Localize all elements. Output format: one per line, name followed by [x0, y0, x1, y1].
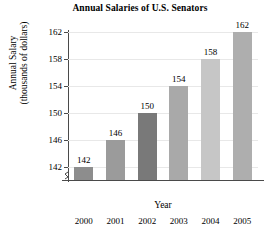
x-tick-label: 2005: [233, 216, 251, 226]
y-axis-title-line2: (thousands of dollars): [19, 0, 30, 138]
chart-title: Annual Salaries of U.S. Senators: [0, 3, 280, 13]
bar[interactable]: [233, 32, 252, 180]
y-tick-label: 146: [49, 135, 63, 145]
y-tick-label: 142: [49, 162, 63, 172]
x-tick-label: 2003: [170, 216, 188, 226]
bar-value-label: 158: [204, 47, 218, 57]
bar-group[interactable]: 142: [74, 32, 93, 180]
x-tick-label: 2000: [75, 216, 93, 226]
bars-layer: 2000142200114620021502003154200415820051…: [68, 32, 258, 180]
bar-value-label: 150: [140, 101, 154, 111]
y-axis-title: Annual Salary (thousands of dollars): [8, 0, 30, 138]
bar[interactable]: [201, 59, 220, 180]
y-tick-label: 162: [49, 27, 63, 37]
bar[interactable]: [138, 113, 157, 180]
y-tick-label: 150: [49, 108, 63, 118]
bar-group[interactable]: 150: [138, 32, 157, 180]
y-tick-label: 154: [49, 81, 63, 91]
bar-value-label: 154: [172, 74, 186, 84]
y-tick-label: 158: [49, 54, 63, 64]
x-tick-label: 2001: [107, 216, 125, 226]
bar[interactable]: [106, 140, 125, 180]
x-tick-label: 2004: [202, 216, 220, 226]
y-axis-title-line1: Annual Salary: [8, 0, 19, 138]
bar-group[interactable]: 158: [201, 32, 220, 180]
plot-area: 142146150154158162 200014220011462002150…: [68, 32, 258, 180]
x-tick-label: 2002: [138, 216, 156, 226]
bar[interactable]: [74, 167, 93, 180]
bar-value-label: 162: [235, 20, 249, 30]
x-axis-title: Year: [68, 200, 258, 210]
bar-group[interactable]: 154: [169, 32, 188, 180]
bar-value-label: 142: [77, 155, 91, 165]
bar[interactable]: [169, 86, 188, 180]
x-axis-line: [62, 180, 264, 181]
bar-chart: Annual Salaries of U.S. Senators Annual …: [0, 0, 280, 232]
bar-group[interactable]: 146: [106, 32, 125, 180]
bar-value-label: 146: [109, 128, 123, 138]
bar-group[interactable]: 162: [233, 32, 252, 180]
